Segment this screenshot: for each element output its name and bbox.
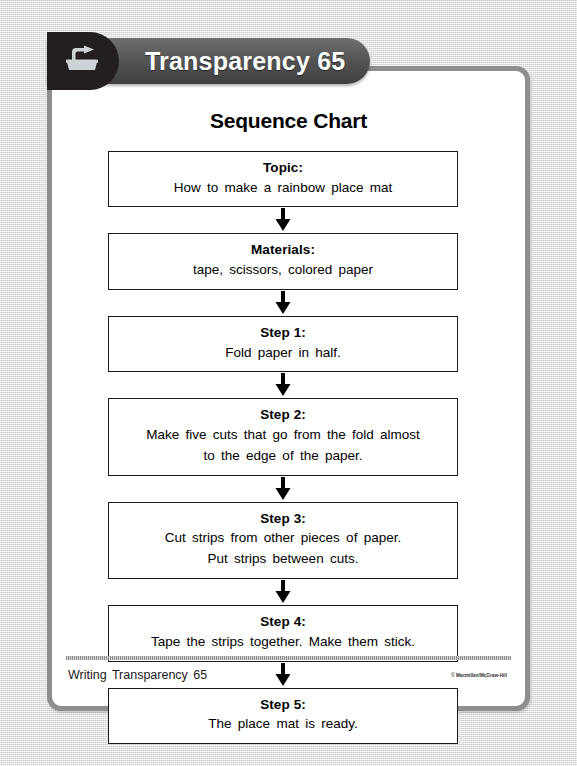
flow-box: Step 1:Fold paper in half. — [108, 316, 458, 372]
flow-box-heading: Step 2: — [117, 405, 449, 425]
header-title: Transparency 65 — [145, 38, 354, 84]
flow-box-line: tape, scissors, colored paper — [117, 260, 449, 281]
flow-node: Step 4:Tape the strips together. Make th… — [108, 605, 458, 661]
overhead-projector-icon — [61, 42, 105, 80]
flow-box-line: Cut strips from other pieces of paper. — [117, 528, 449, 549]
flow-box-heading: Step 4: — [117, 612, 449, 632]
flow-box-line: Put strips between cuts. — [117, 549, 449, 570]
footer-label: Writing Transparency 65 — [68, 668, 207, 682]
flow-box-line: Make five cuts that go from the fold alm… — [117, 425, 449, 446]
copyright-notice: © Macmillan/McGraw-Hill — [451, 672, 507, 678]
flow-box-heading: Topic: — [117, 158, 449, 178]
flow-box: Step 2:Make five cuts that go from the f… — [108, 398, 458, 475]
footer-divider — [66, 656, 511, 660]
flow-box-heading: Step 5: — [117, 695, 449, 715]
flow-box-heading: Step 3: — [117, 509, 449, 529]
down-arrow-icon — [108, 579, 458, 605]
flow-box: Materials:tape, scissors, colored paper — [108, 233, 458, 289]
flow-box-line: The place mat is ready. — [117, 714, 449, 735]
sheet-footer: Writing Transparency 65 © Macmillan/McGr… — [66, 656, 511, 696]
flow-box-heading: Step 1: — [117, 323, 449, 343]
flow-box: Step 5:The place mat is ready. — [108, 688, 458, 744]
down-arrow-icon — [108, 476, 458, 502]
flow-box: Topic:How to make a rainbow place mat — [108, 151, 458, 207]
header-icon-badge — [47, 32, 119, 90]
flow-box-heading: Materials: — [117, 240, 449, 260]
flow-node: Materials:tape, scissors, colored paper — [108, 233, 458, 289]
flow-node: Topic:How to make a rainbow place mat — [108, 151, 458, 207]
down-arrow-icon — [108, 290, 458, 316]
transparency-sheet: Sequence Chart Topic:How to make a rainb… — [47, 66, 530, 711]
flow-box-line: How to make a rainbow place mat — [117, 178, 449, 199]
down-arrow-icon — [108, 372, 458, 398]
flow-node: Step 3:Cut strips from other pieces of p… — [108, 502, 458, 579]
flow-node: Step 5:The place mat is ready. — [108, 688, 458, 744]
flow-box-line: Tape the strips together. Make them stic… — [117, 632, 449, 653]
flow-node: Step 2:Make five cuts that go from the f… — [108, 398, 458, 475]
flow-box: Step 3:Cut strips from other pieces of p… — [108, 502, 458, 579]
flow-node: Step 1:Fold paper in half. — [108, 316, 458, 372]
flow-box: Step 4:Tape the strips together. Make th… — [108, 605, 458, 661]
flow-box-line: to the edge of the paper. — [117, 446, 449, 467]
page-title: Sequence Chart — [52, 109, 525, 133]
sheet-inner: Sequence Chart Topic:How to make a rainb… — [52, 71, 525, 706]
flow-box-line: Fold paper in half. — [117, 343, 449, 364]
down-arrow-icon — [108, 207, 458, 233]
